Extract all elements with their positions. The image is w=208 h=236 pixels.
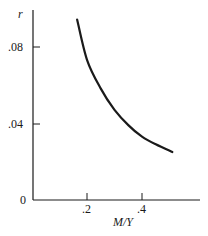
data-curve (77, 20, 172, 153)
x-tick-label-4: .4 (137, 202, 146, 216)
x-axis-label: M/Y (112, 215, 134, 229)
chart: r .08 .04 0 .2 .4 M/Y (0, 0, 208, 236)
y-axis-label: r (18, 7, 23, 21)
x-tick-label-2: .2 (82, 202, 91, 216)
y-tick-label-08: .08 (8, 40, 23, 54)
y-tick-label-04: .04 (8, 117, 23, 131)
origin-label: 0 (20, 193, 26, 207)
